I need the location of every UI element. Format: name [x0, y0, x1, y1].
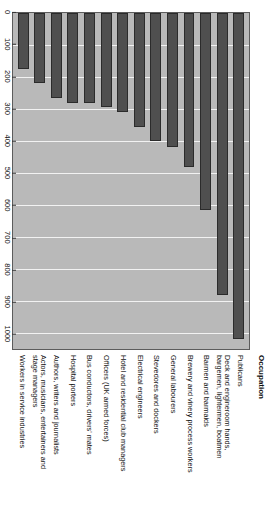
bar-row [81, 13, 98, 349]
category-label-line: Publicans [235, 355, 243, 387]
bar-row [148, 13, 165, 349]
plot-area [12, 12, 250, 350]
bar[interactable] [167, 13, 178, 147]
bar[interactable] [150, 13, 161, 141]
bar-row [181, 13, 198, 349]
bar[interactable] [34, 13, 45, 83]
bar-chart-figure: 01002003004005006007008009001000 SMR 100… [0, 0, 274, 513]
category-label-line: Stevedores and dockers [152, 355, 160, 434]
bar-row [98, 13, 115, 349]
value-axis-tick: 100 [3, 38, 12, 51]
category-axis-label: Authors, writers and journalists [47, 352, 64, 510]
category-label-line: Officers (UK armed forces) [102, 355, 110, 442]
value-axis-tick: 200 [3, 70, 12, 83]
bar[interactable] [84, 13, 95, 103]
bar[interactable] [117, 13, 128, 112]
value-axis-tick-mark [12, 237, 16, 238]
category-label-line: stage managers [31, 355, 39, 469]
bar[interactable] [51, 13, 62, 98]
value-axis-tick-mark [12, 173, 16, 174]
value-axis-tick: 1000 [3, 326, 12, 343]
bar[interactable] [101, 13, 112, 107]
bar[interactable] [217, 13, 228, 295]
category-axis-label: Deck and engineroom hands,bargemen, ligh… [214, 352, 231, 510]
value-axis: 01002003004005006007008009001000 [0, 12, 12, 350]
bar-row [114, 13, 131, 349]
bar[interactable] [134, 13, 145, 127]
bar-row [131, 13, 148, 349]
bar-row [48, 13, 65, 349]
category-label-line: Authors, writers and journalists [52, 355, 60, 455]
value-axis-tick: 900 [3, 295, 12, 308]
chart-figure-rotation-wrapper: 01002003004005006007008009001000 SMR 100… [0, 0, 274, 513]
category-axis-label: Hotel and residential club managers [114, 352, 131, 510]
category-axis-label: Barmen and barmaids [198, 352, 215, 510]
category-label-line: Hospital porters [68, 355, 76, 406]
bar[interactable] [184, 13, 195, 167]
category-axis: PublicansDeck and engineroom hands,barge… [12, 352, 250, 510]
category-axis-label: Hospital porters [64, 352, 81, 510]
category-axis-label: General labourers [164, 352, 181, 510]
value-axis-tick: 600 [3, 199, 12, 212]
category-axis-title: Occupation [257, 352, 266, 399]
value-axis-tick-mark [12, 205, 16, 206]
value-axis-tick-mark [12, 302, 16, 303]
value-axis-tick-mark [12, 141, 16, 142]
category-axis-label: Actors, musicians, entertainers andstage… [31, 352, 48, 510]
value-axis-tick: 500 [3, 167, 12, 180]
value-axis-tick-mark [12, 44, 16, 45]
bar-row [15, 13, 32, 349]
category-axis-label: Stevedores and dockers [148, 352, 165, 510]
value-axis-tick-mark [12, 270, 16, 271]
value-axis-tick: 0 [3, 10, 12, 14]
bar[interactable] [200, 13, 211, 210]
value-axis-tick-mark [12, 76, 16, 77]
category-label-line: Barmen and barmaids [202, 355, 210, 427]
value-axis-tick-mark [12, 334, 16, 335]
category-axis-label: Officers (UK armed forces) [98, 352, 115, 510]
value-axis-tick: 800 [3, 263, 12, 276]
value-axis-tick-mark [12, 109, 16, 110]
category-label-line: Brewery and vinery process workers [185, 355, 193, 473]
bar[interactable] [67, 13, 78, 103]
value-axis-tick: 300 [3, 102, 12, 115]
category-label-line: Bus conductors, drivers' mates [85, 355, 93, 455]
bar[interactable] [233, 13, 244, 339]
category-label-line: Deck and engineroom hands, [223, 355, 231, 458]
category-axis-label: Workers in service industries [14, 352, 31, 510]
category-axis-label: Publicans [231, 352, 248, 510]
bar-row [214, 13, 231, 349]
value-axis-tick: 700 [3, 231, 12, 244]
value-axis-tick: 400 [3, 134, 12, 147]
category-label-line: bargemen, lightermen, boatmen [214, 355, 222, 458]
bar-row [230, 13, 247, 349]
bar-row [65, 13, 82, 349]
category-label-line: General labourers [169, 355, 177, 413]
bar-row [164, 13, 181, 349]
category-axis-label: Electrical engineers [131, 352, 148, 510]
category-label-line: Hotel and residential club managers [118, 355, 126, 471]
category-axis-label: Brewery and vinery process workers [181, 352, 198, 510]
value-axis-tick-mark [12, 12, 16, 13]
category-label-line: Actors, musicians, entertainers and [39, 355, 47, 469]
bar-series [13, 13, 249, 349]
bar-row [197, 13, 214, 349]
category-label-line: Workers in service industries [18, 355, 26, 448]
bar[interactable] [18, 13, 29, 69]
category-label-line: Electrical engineers [135, 355, 143, 419]
bar-row [31, 13, 48, 349]
category-axis-label: Bus conductors, drivers' mates [81, 352, 98, 510]
